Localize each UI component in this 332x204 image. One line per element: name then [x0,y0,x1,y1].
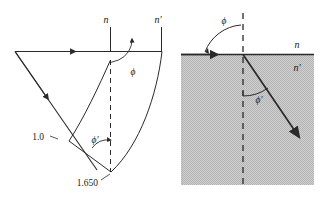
incident-ray-arrow [15,52,48,100]
angle-arc-phi-left [119,39,133,60]
left-label-n-prime: n′ [154,14,162,25]
right-label-n: n [295,39,300,50]
right-label-phi-prime: ϕ′ [256,95,264,105]
optics-refraction-figure: n n′ 1.0 1.650 ϕ ϕ′ ϕ [0,0,332,204]
right-panel-group: ϕ ϕ′ n n′ [181,13,314,188]
left-panel-group: n n′ 1.0 1.650 ϕ ϕ′ [15,14,162,188]
wavefront-arc-inner [69,60,111,141]
label-radius-1-0: 1.0 [32,132,44,142]
left-label-n: n [104,14,109,25]
right-label-phi: ϕ [222,16,227,26]
figure-canvas: n n′ 1.0 1.650 ϕ ϕ′ ϕ [0,0,332,204]
leader-radius-inner [101,174,110,180]
shaded-medium-region [181,55,314,185]
label-radius-1-650: 1.650 [77,178,99,188]
angle-arc-phi-right [205,25,241,52]
left-label-phi: ϕ [131,67,136,77]
refracted-wavefront-line [69,141,111,172]
right-label-n-prime: n′ [293,62,301,73]
left-label-phi-prime: ϕ′ [92,135,100,145]
wavefront-arc-outer [111,52,162,173]
leader-radius-outer [50,136,58,139]
angle-arc-phi-left-foot [111,60,119,63]
